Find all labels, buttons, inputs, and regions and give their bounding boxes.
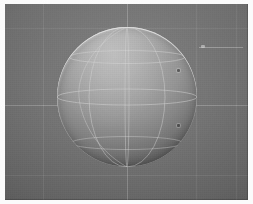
north-pole-point (177, 69, 180, 72)
viewport-frame[interactable] (5, 4, 248, 200)
sphere-object[interactable] (55, 23, 199, 177)
origin-point (177, 124, 180, 127)
sphere-surface (57, 27, 197, 167)
screenshot-root (0, 0, 253, 204)
edge-highlight-segment (199, 47, 243, 48)
edge-highlight-dot (201, 45, 205, 48)
